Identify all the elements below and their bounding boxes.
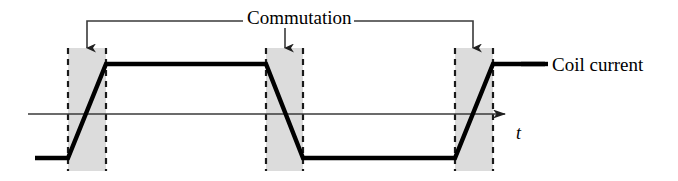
- commutation-band-group: [68, 48, 493, 171]
- coil-current-label: Coil current: [552, 55, 643, 74]
- commutation-waveform-figure: Commutation Coil current t: [0, 0, 678, 181]
- commutation-leader-left: [87, 21, 243, 48]
- commutation-leader-right: [354, 21, 473, 48]
- time-axis-label: t: [516, 124, 521, 142]
- leader-right-path: [354, 21, 473, 48]
- leader-left-path: [87, 21, 243, 48]
- commutation-label: Commutation: [247, 8, 352, 27]
